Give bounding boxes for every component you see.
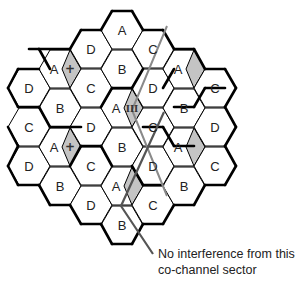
cell-label: D	[86, 120, 95, 135]
cell-label: C	[148, 198, 157, 213]
cell-label: B	[180, 179, 189, 194]
cell-label: C	[148, 42, 157, 57]
cell-label: A	[50, 140, 59, 155]
cell-label: D	[24, 159, 33, 174]
sector-marker: +	[65, 62, 75, 76]
cell-label: A	[174, 140, 183, 155]
cell-label: A	[112, 179, 121, 194]
cell-label: B	[118, 218, 127, 233]
caption-line-2: co-channel sector	[158, 262, 297, 278]
cell-label: C	[148, 120, 157, 135]
cell-label: B	[118, 140, 127, 155]
cell-label: A	[118, 23, 127, 38]
cell-label: D	[86, 42, 95, 57]
caption-line-1: No interference from this	[158, 246, 297, 262]
cell-label: C	[86, 81, 95, 96]
cell-label: D	[148, 81, 157, 96]
cell-label: A	[174, 62, 183, 77]
cell-label: B	[56, 179, 65, 194]
cell-label: C	[86, 159, 95, 174]
cell-label: D	[148, 159, 157, 174]
sector-marker: III	[126, 104, 139, 114]
cell-label: D	[86, 198, 95, 213]
cell-label: D	[24, 81, 33, 96]
cell-label: B	[118, 62, 127, 77]
cell-label: D	[210, 120, 219, 135]
cell-label: C	[210, 81, 219, 96]
cell-label: A	[50, 62, 59, 77]
cell-label: C	[24, 120, 33, 135]
cell-cluster-diagram: DCDA+BA+BDCDCDABAIIIBABCDCDCABABCDC	[0, 0, 297, 284]
cell-label: A	[112, 101, 121, 116]
cell-label: B	[180, 101, 189, 116]
annotation-caption: No interference from this co-channel sec…	[158, 246, 297, 278]
sector-marker: +	[65, 140, 75, 154]
cell-label: B	[56, 101, 65, 116]
cell-label: C	[210, 159, 219, 174]
